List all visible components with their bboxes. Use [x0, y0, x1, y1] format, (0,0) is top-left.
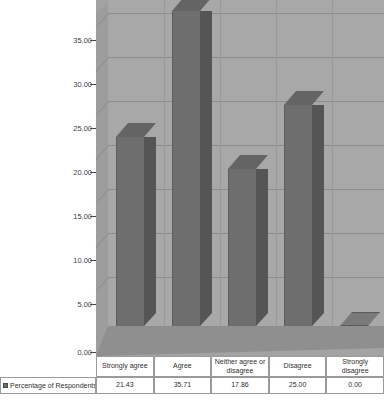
gridline-35: [108, 13, 384, 14]
data-table-header-row: Strongly agree Agree Neither agree or di…: [0, 356, 384, 377]
y-axis-label: 10.00: [30, 256, 92, 265]
category-header-cell: Neither agree or disagree: [211, 356, 269, 377]
bar-side-face: [200, 11, 212, 326]
bar-front-face: [284, 105, 312, 326]
value-cell: 17.86: [211, 377, 269, 394]
y-axis-tick-mark: [90, 84, 96, 85]
y-axis-tick-mark: [90, 260, 96, 261]
category-divider-1: [164, 0, 165, 326]
y-axis-tick-mark: [90, 304, 96, 305]
category-divider-4: [332, 0, 333, 326]
y-axis-tick-mark: [90, 352, 96, 353]
value-cell: 0.00: [326, 377, 384, 394]
y-axis-tick-mark: [90, 172, 96, 173]
bar-side-face: [312, 105, 324, 326]
category-header-cell: Strongly disagree: [326, 356, 384, 377]
legend-series-label: Percentage of Respondents: [10, 382, 96, 389]
y-axis-tick-mark: [90, 40, 96, 41]
y-axis-tick-mark: [90, 128, 96, 129]
bar-front-face: [116, 137, 144, 326]
y-axis-tick-mark: [90, 216, 96, 217]
y-axis-label: 20.00: [30, 168, 92, 177]
category-divider-3: [276, 0, 277, 326]
data-table-value-row: Percentage of Respondents 21.43 35.71 17…: [0, 377, 384, 394]
table-corner-cell: [0, 356, 96, 377]
category-header-cell: Strongly agree: [96, 356, 154, 377]
bar-front-face: [172, 11, 200, 326]
category-divider-2: [220, 0, 221, 326]
plot-area: [96, 0, 384, 356]
value-cell: 35.71: [154, 377, 212, 394]
category-header-cell: Disagree: [269, 356, 327, 377]
bar-front-face: [228, 169, 256, 326]
chart-container: 35.00 30.00 25.00 20.00 15.00 10.00 5.00…: [0, 0, 384, 402]
gridline-30: [108, 57, 384, 58]
gridline-25: [108, 101, 384, 102]
y-axis-label: 5.00: [30, 300, 92, 309]
category-header-cell: Agree: [154, 356, 212, 377]
y-axis-label: 30.00: [30, 80, 92, 89]
y-axis-label: 25.00: [30, 124, 92, 133]
data-table: Strongly agree Agree Neither agree or di…: [0, 356, 384, 396]
bar-side-face: [144, 137, 156, 326]
value-cell: 21.43: [96, 377, 154, 394]
legend-swatch-icon: [3, 383, 8, 388]
bar-side-face: [256, 169, 268, 326]
y-axis-label: 35.00: [30, 36, 92, 45]
legend-entry: Percentage of Respondents: [0, 377, 96, 394]
y-axis-label: 15.00: [30, 212, 92, 221]
value-cell: 25.00: [269, 377, 327, 394]
